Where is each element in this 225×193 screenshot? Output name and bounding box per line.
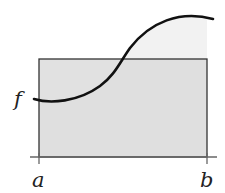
mean-value-diagram: f a b	[0, 0, 225, 193]
label-b: b	[200, 168, 213, 192]
label-a: a	[32, 168, 45, 192]
label-f: f	[12, 87, 25, 111]
mean-value-rectangle	[39, 59, 207, 157]
